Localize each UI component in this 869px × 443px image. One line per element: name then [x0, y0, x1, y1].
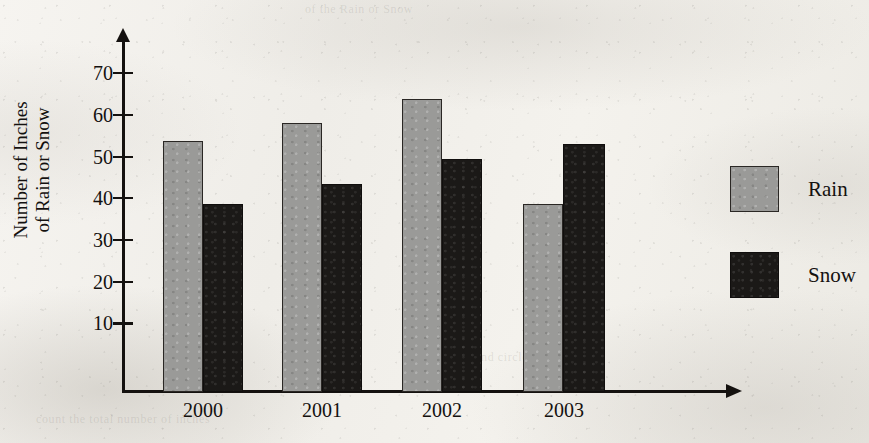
y-tick-label: 20: [67, 272, 113, 292]
y-tick-20: 20: [0, 272, 113, 292]
bar-rain-2000[interactable]: [163, 141, 203, 392]
y-tick-mark: [113, 197, 133, 199]
y-tick-mark: [113, 281, 133, 283]
bar-chart-plot: Number of Inches of Rain or Snow 10 20 3…: [0, 0, 869, 443]
bar-snow-2000[interactable]: [203, 204, 243, 392]
y-tick-70: 70: [0, 63, 113, 83]
bar-snow-2003[interactable]: [563, 144, 605, 392]
y-tick-60: 60: [0, 105, 113, 125]
x-tick-label-2003: 2003: [504, 398, 624, 422]
bar-rain-2001[interactable]: [282, 123, 322, 392]
y-tick-label: 10: [67, 313, 113, 333]
y-tick-label: 50: [67, 147, 113, 167]
y-tick-50: 50: [0, 147, 113, 167]
x-tick-label-2001: 2001: [262, 398, 382, 422]
scanned-chart-page: of the Rain or Snow the question and cir…: [0, 0, 869, 443]
x-axis-arrow-icon: [726, 384, 742, 398]
x-tick-label-2002: 2002: [382, 398, 502, 422]
y-tick-mark: [113, 322, 133, 324]
bar-snow-2001[interactable]: [322, 184, 362, 393]
x-tick-label-2000: 2000: [143, 398, 263, 422]
y-axis-line: [122, 36, 125, 393]
y-tick-40: 40: [0, 188, 113, 208]
legend-item-snow[interactable]: Snow: [730, 252, 856, 298]
rain-swatch-icon: [730, 166, 779, 212]
y-tick-label: 40: [67, 188, 113, 208]
bar-rain-2002[interactable]: [402, 99, 442, 392]
y-tick-mark: [113, 239, 133, 241]
y-tick-30: 30: [0, 230, 113, 250]
y-tick-label: 30: [67, 230, 113, 250]
legend-label-snow: Snow: [808, 265, 856, 286]
y-axis-arrow-icon: [116, 28, 130, 42]
y-tick-label: 70: [67, 63, 113, 83]
y-tick-mark: [113, 156, 133, 158]
legend-label-rain: Rain: [808, 179, 848, 200]
y-tick-mark: [113, 114, 133, 116]
legend-item-rain[interactable]: Rain: [730, 166, 848, 212]
y-tick-10: 10: [0, 313, 113, 333]
y-tick-label: 60: [67, 105, 113, 125]
bar-snow-2002[interactable]: [442, 159, 482, 392]
snow-swatch-icon: [730, 252, 779, 298]
bar-rain-2003[interactable]: [523, 204, 563, 392]
y-tick-mark: [113, 72, 133, 74]
